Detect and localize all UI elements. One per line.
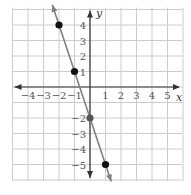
x-tick-label: 4 bbox=[149, 90, 155, 101]
y-tick-label: −5 bbox=[71, 160, 86, 171]
x-tick-label: −1 bbox=[67, 90, 82, 101]
y-tick-label: −4 bbox=[71, 144, 86, 155]
data-point bbox=[86, 114, 93, 121]
y-tick-label: −2 bbox=[71, 113, 86, 124]
y-axis-label: y bbox=[95, 7, 103, 20]
x-tick-label: −3 bbox=[36, 90, 51, 101]
coordinate-plane: −4−3−2−1123454321−2−3−4−5 x y bbox=[0, 0, 191, 195]
y-tick-label: 4 bbox=[80, 20, 86, 31]
y-tick-label: 1 bbox=[80, 67, 86, 78]
data-point bbox=[102, 161, 109, 168]
y-tick-label: 2 bbox=[80, 51, 86, 62]
x-tick-label: −2 bbox=[52, 90, 67, 101]
y-tick-label: −3 bbox=[71, 129, 86, 140]
x-tick-label: 2 bbox=[118, 90, 124, 101]
data-point bbox=[71, 68, 78, 75]
x-tick-label: 3 bbox=[133, 90, 139, 101]
y-tick-label: 3 bbox=[80, 36, 86, 47]
x-tick-label: 5 bbox=[164, 90, 170, 101]
x-tick-label: 1 bbox=[102, 90, 108, 101]
x-tick-label: −4 bbox=[21, 90, 36, 101]
x-axis-label: x bbox=[176, 91, 183, 104]
data-point bbox=[55, 21, 62, 28]
